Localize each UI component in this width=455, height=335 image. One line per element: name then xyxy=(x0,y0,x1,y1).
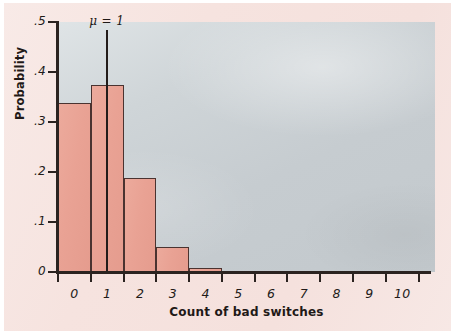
x-axis-tick xyxy=(385,274,387,282)
y-axis-tick xyxy=(48,71,57,73)
y-axis-tick-label: .1 xyxy=(24,214,46,228)
mean-marker-label: μ = 1 xyxy=(89,14,124,28)
x-axis-tick xyxy=(319,274,321,282)
x-axis-tick xyxy=(155,274,157,282)
y-axis-tick xyxy=(48,221,57,223)
y-axis-tick xyxy=(48,271,57,273)
x-axis-tick xyxy=(57,274,59,282)
bar xyxy=(124,178,157,272)
y-axis-tick-label: .2 xyxy=(24,164,46,178)
x-axis-tick xyxy=(254,274,256,282)
y-axis-tick xyxy=(48,121,57,123)
bar xyxy=(156,247,189,272)
y-axis-tick xyxy=(48,171,57,173)
figure: μ = 1 0.1.2.3.4.5 012345678910 Probabili… xyxy=(0,0,455,335)
x-axis-tick xyxy=(418,274,420,282)
x-axis-tick-label: 8 xyxy=(325,286,349,301)
y-axis-title: Probability xyxy=(13,47,27,120)
x-axis-tick-label: 9 xyxy=(357,286,381,301)
y-axis-tick-label: 0 xyxy=(24,264,46,278)
x-axis-line xyxy=(56,271,431,274)
x-axis-tick xyxy=(123,274,125,282)
x-axis-title: Count of bad switches xyxy=(58,305,435,319)
x-axis-tick-label: 6 xyxy=(259,286,283,301)
x-axis-tick xyxy=(286,274,288,282)
x-axis-tick-label: 7 xyxy=(292,286,316,301)
x-axis-tick xyxy=(352,274,354,282)
y-axis-tick-label: .5 xyxy=(24,14,46,28)
y-axis-line xyxy=(56,21,59,273)
bar xyxy=(58,103,91,272)
x-axis-tick xyxy=(188,274,190,282)
mean-marker-line xyxy=(106,30,108,273)
y-axis-tick-label: .3 xyxy=(24,114,46,128)
x-axis-tick xyxy=(221,274,223,282)
x-axis-tick-label: 0 xyxy=(62,286,86,301)
x-axis-tick-label: 5 xyxy=(226,286,250,301)
x-axis-tick-label: 3 xyxy=(161,286,185,301)
y-axis-tick-label: .4 xyxy=(24,64,46,78)
x-axis-tick-label: 10 xyxy=(390,286,414,301)
x-axis-tick-label: 2 xyxy=(128,286,152,301)
x-axis-tick-label: 1 xyxy=(95,286,119,301)
y-axis-tick xyxy=(48,21,57,23)
x-axis-tick-label: 4 xyxy=(194,286,218,301)
x-axis-tick xyxy=(90,274,92,282)
